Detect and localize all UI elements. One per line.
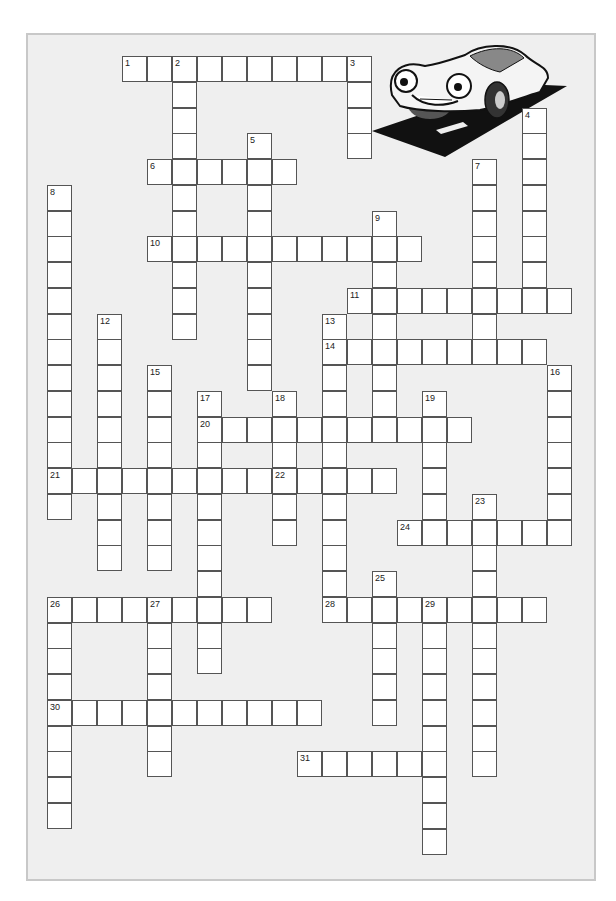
crossword-cell[interactable]: 20 <box>197 417 222 443</box>
crossword-cell[interactable] <box>422 623 447 649</box>
crossword-cell[interactable] <box>247 700 272 726</box>
crossword-cell[interactable] <box>472 520 497 546</box>
crossword-cell[interactable] <box>322 365 347 391</box>
crossword-cell[interactable] <box>522 211 547 237</box>
crossword-cell[interactable] <box>197 623 222 649</box>
crossword-cell[interactable] <box>322 236 347 262</box>
crossword-cell[interactable] <box>47 314 72 340</box>
crossword-cell[interactable]: 10 <box>147 236 172 262</box>
crossword-cell[interactable] <box>47 777 72 803</box>
crossword-cell[interactable] <box>347 133 372 159</box>
crossword-cell[interactable] <box>147 545 172 571</box>
crossword-cell[interactable] <box>147 442 172 468</box>
crossword-cell[interactable] <box>172 159 197 185</box>
crossword-cell[interactable]: 30 <box>47 700 72 726</box>
crossword-cell[interactable] <box>297 417 322 443</box>
crossword-cell[interactable] <box>447 417 472 443</box>
crossword-cell[interactable] <box>97 520 122 546</box>
crossword-cell[interactable] <box>522 597 547 623</box>
crossword-cell[interactable] <box>172 262 197 288</box>
crossword-cell[interactable] <box>347 236 372 262</box>
crossword-cell[interactable] <box>97 365 122 391</box>
crossword-cell[interactable] <box>322 391 347 417</box>
crossword-cell[interactable] <box>197 442 222 468</box>
crossword-cell[interactable] <box>347 82 372 108</box>
crossword-cell[interactable] <box>422 417 447 443</box>
crossword-cell[interactable] <box>372 365 397 391</box>
crossword-cell[interactable] <box>72 700 97 726</box>
crossword-cell[interactable] <box>547 391 572 417</box>
crossword-cell[interactable] <box>522 520 547 546</box>
crossword-cell[interactable] <box>547 468 572 494</box>
crossword-cell[interactable] <box>197 700 222 726</box>
crossword-cell[interactable] <box>472 597 497 623</box>
crossword-cell[interactable] <box>472 236 497 262</box>
crossword-cell[interactable] <box>472 571 497 597</box>
crossword-cell[interactable] <box>422 648 447 674</box>
crossword-cell[interactable] <box>222 159 247 185</box>
crossword-cell[interactable] <box>197 520 222 546</box>
crossword-cell[interactable] <box>422 520 447 546</box>
crossword-cell[interactable] <box>447 597 472 623</box>
crossword-cell[interactable] <box>322 468 347 494</box>
crossword-cell[interactable] <box>222 468 247 494</box>
crossword-cell[interactable]: 1 <box>122 56 147 82</box>
crossword-cell[interactable] <box>472 726 497 752</box>
crossword-cell[interactable] <box>472 545 497 571</box>
crossword-cell[interactable] <box>147 56 172 82</box>
crossword-cell[interactable] <box>197 56 222 82</box>
crossword-cell[interactable]: 9 <box>372 211 397 237</box>
crossword-cell[interactable]: 8 <box>47 185 72 211</box>
crossword-cell[interactable] <box>47 211 72 237</box>
crossword-cell[interactable] <box>322 417 347 443</box>
crossword-cell[interactable] <box>422 339 447 365</box>
crossword-cell[interactable]: 25 <box>372 571 397 597</box>
crossword-cell[interactable] <box>322 56 347 82</box>
crossword-cell[interactable] <box>172 185 197 211</box>
crossword-cell[interactable] <box>322 571 347 597</box>
crossword-cell[interactable]: 31 <box>297 751 322 777</box>
crossword-cell[interactable] <box>472 751 497 777</box>
crossword-cell[interactable] <box>422 726 447 752</box>
crossword-cell[interactable] <box>497 288 522 314</box>
crossword-cell[interactable] <box>272 56 297 82</box>
crossword-cell[interactable] <box>347 417 372 443</box>
crossword-cell[interactable] <box>422 288 447 314</box>
crossword-cell[interactable]: 6 <box>147 159 172 185</box>
crossword-cell[interactable] <box>147 700 172 726</box>
crossword-cell[interactable] <box>197 597 222 623</box>
crossword-cell[interactable]: 13 <box>322 314 347 340</box>
crossword-cell[interactable] <box>522 185 547 211</box>
crossword-cell[interactable] <box>97 494 122 520</box>
crossword-cell[interactable] <box>147 751 172 777</box>
crossword-cell[interactable] <box>472 185 497 211</box>
crossword-cell[interactable] <box>347 108 372 134</box>
crossword-cell[interactable] <box>372 597 397 623</box>
crossword-cell[interactable] <box>197 545 222 571</box>
crossword-cell[interactable] <box>122 597 147 623</box>
crossword-cell[interactable] <box>172 108 197 134</box>
crossword-cell[interactable] <box>47 391 72 417</box>
crossword-cell[interactable] <box>422 468 447 494</box>
crossword-cell[interactable] <box>472 648 497 674</box>
crossword-cell[interactable] <box>522 262 547 288</box>
crossword-cell[interactable] <box>497 597 522 623</box>
crossword-cell[interactable] <box>372 751 397 777</box>
crossword-cell[interactable] <box>247 262 272 288</box>
crossword-cell[interactable]: 11 <box>347 288 372 314</box>
crossword-cell[interactable] <box>272 159 297 185</box>
crossword-cell[interactable] <box>347 468 372 494</box>
crossword-cell[interactable] <box>472 339 497 365</box>
crossword-cell[interactable] <box>147 468 172 494</box>
crossword-cell[interactable] <box>372 314 397 340</box>
crossword-cell[interactable] <box>172 288 197 314</box>
crossword-cell[interactable] <box>247 314 272 340</box>
crossword-cell[interactable] <box>472 623 497 649</box>
crossword-cell[interactable] <box>322 545 347 571</box>
crossword-cell[interactable]: 16 <box>547 365 572 391</box>
crossword-cell[interactable] <box>347 339 372 365</box>
crossword-cell[interactable] <box>147 520 172 546</box>
crossword-cell[interactable] <box>372 391 397 417</box>
crossword-cell[interactable] <box>97 417 122 443</box>
crossword-cell[interactable] <box>247 417 272 443</box>
